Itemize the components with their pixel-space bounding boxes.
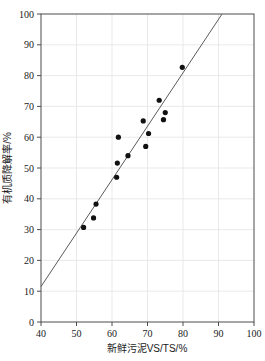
data-point bbox=[93, 201, 98, 206]
chart-container: 405060708090100 0102030405060708090100 新… bbox=[0, 0, 265, 361]
y-axis-ticks: 0102030405060708090100 bbox=[19, 9, 41, 328]
grid-lines bbox=[41, 14, 254, 322]
x-tick-label: 90 bbox=[214, 328, 224, 339]
scatter-chart: 405060708090100 0102030405060708090100 新… bbox=[0, 0, 265, 361]
y-tick-label: 80 bbox=[24, 70, 34, 81]
data-point bbox=[163, 110, 168, 115]
x-tick-label: 60 bbox=[107, 328, 117, 339]
trend-line bbox=[41, 14, 222, 287]
x-tick-label: 50 bbox=[72, 328, 82, 339]
data-point bbox=[141, 118, 146, 123]
data-point bbox=[114, 175, 119, 180]
data-point bbox=[81, 225, 86, 230]
x-tick-label: 40 bbox=[36, 328, 46, 339]
y-axis-title: 有机质降解率/% bbox=[1, 132, 13, 204]
y-tick-label: 30 bbox=[24, 224, 34, 235]
x-axis-ticks: 405060708090100 bbox=[36, 322, 262, 339]
data-point bbox=[125, 153, 130, 158]
y-tick-label: 70 bbox=[24, 101, 34, 112]
data-point bbox=[91, 215, 96, 220]
y-tick-label: 100 bbox=[19, 9, 34, 20]
x-axis-title: 新鲜污泥VS/TS/% bbox=[107, 342, 188, 354]
y-tick-label: 10 bbox=[24, 286, 34, 297]
y-tick-label: 40 bbox=[24, 193, 34, 204]
y-tick-label: 60 bbox=[24, 132, 34, 143]
data-point bbox=[116, 135, 121, 140]
data-point bbox=[143, 144, 148, 149]
data-point bbox=[146, 131, 151, 136]
data-point bbox=[161, 117, 166, 122]
y-tick-label: 90 bbox=[24, 39, 34, 50]
data-point bbox=[157, 98, 162, 103]
data-point bbox=[180, 65, 185, 70]
data-point bbox=[115, 160, 120, 165]
y-tick-label: 50 bbox=[24, 163, 34, 174]
y-tick-label: 0 bbox=[29, 317, 34, 328]
y-tick-label: 20 bbox=[24, 255, 34, 266]
x-tick-label: 70 bbox=[143, 328, 153, 339]
x-tick-label: 100 bbox=[247, 328, 262, 339]
x-tick-label: 80 bbox=[178, 328, 188, 339]
